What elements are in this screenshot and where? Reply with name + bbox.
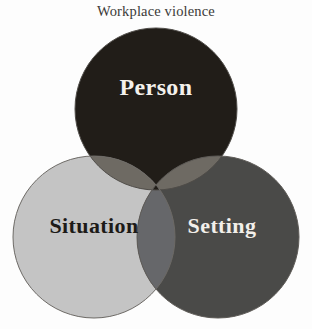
venn-label-person: Person — [0, 74, 312, 101]
venn-svg — [0, 0, 312, 329]
venn-diagram-figure: Workplace violence — [0, 0, 312, 329]
venn-label-setting: Setting — [142, 213, 302, 239]
